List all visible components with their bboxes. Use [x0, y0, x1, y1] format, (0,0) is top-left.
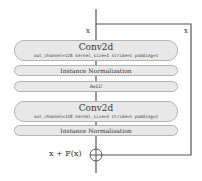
conv2d-title: Conv2d [15, 103, 177, 114]
addition-icon [90, 149, 102, 161]
output-label: x + F(x) [49, 149, 82, 158]
skip-x-label: x [184, 27, 188, 35]
instance-norm-label: Instance Normalization [15, 126, 177, 136]
conv2d-block-2: Conv2d out_channel=128 kernel_size=3 str… [14, 101, 178, 122]
instance-norm-block-1: Instance Normalization [14, 65, 178, 76]
instance-norm-block-2: Instance Normalization [14, 125, 178, 136]
relu-label: ReLU [15, 82, 177, 92]
input-x-label: x [86, 27, 90, 35]
conv2d-params: out_channel=128 kernel_size=3 stride=1 p… [15, 114, 177, 120]
conv2d-block-1: Conv2d out_channel=128 kernel_size=3 str… [14, 40, 178, 61]
relu-block: ReLU [14, 81, 178, 92]
residual-block-diagram: x x Conv2d out_channel=128 kernel_size=3… [0, 0, 202, 181]
instance-norm-label: Instance Normalization [15, 66, 177, 76]
conv2d-params: out_channel=128 kernel_size=3 stride=1 p… [15, 53, 177, 59]
conv2d-title: Conv2d [15, 42, 177, 53]
